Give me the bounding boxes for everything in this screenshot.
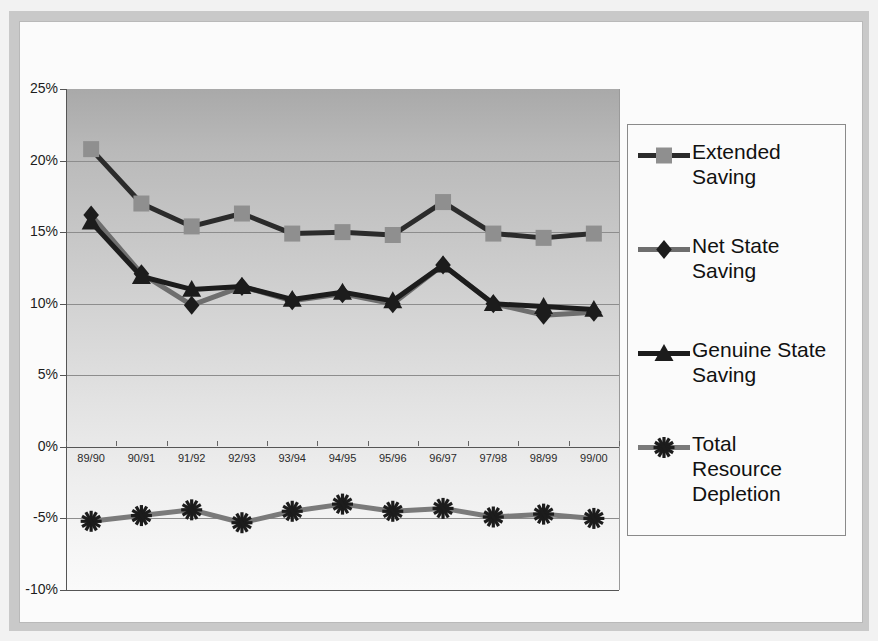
x-axis-tick (267, 441, 268, 446)
data-point (485, 226, 501, 242)
data-point (332, 494, 353, 515)
x-axis-tick (518, 441, 519, 446)
data-point (133, 196, 149, 212)
legend-label-line: Resource (692, 456, 782, 481)
x-axis-tick (619, 441, 620, 446)
legend-entry-extended-saving[interactable]: ExtendedSaving (636, 139, 781, 189)
legend-label: TotalResourceDepletion (692, 431, 782, 506)
y-axis-label-20: 20% (8, 154, 58, 166)
legend-label-line: Genuine State (692, 337, 826, 362)
y-axis-label-0: 0% (8, 440, 58, 452)
legend-label-line: Net State (692, 233, 780, 258)
legend-label-line: Depletion (692, 481, 782, 506)
legend-label: ExtendedSaving (692, 139, 781, 189)
legend-marker-diamond-icon (636, 235, 692, 261)
data-point (231, 512, 252, 533)
data-point (131, 505, 152, 526)
y-axis-label-15: 15% (8, 225, 58, 237)
data-point (483, 506, 504, 527)
y-axis-tick (60, 232, 66, 233)
y-axis-label-neg5: -5% (8, 511, 58, 523)
x-axis-tick (468, 441, 469, 446)
y-axis-tick (60, 375, 66, 376)
data-point (282, 501, 303, 522)
data-point (335, 224, 351, 240)
x-axis-tick (167, 441, 168, 446)
screenshot-frame: 25%20%15%10%5%0%-5%-10%89/9090/9191/9292… (0, 0, 878, 641)
data-point (184, 218, 200, 234)
data-point (81, 511, 102, 532)
legend-entry-total-resource-depletion[interactable]: TotalResourceDepletion (636, 431, 782, 506)
legend-entry-genuine-state-saving[interactable]: Genuine StateSaving (636, 337, 826, 387)
legend-label: Genuine StateSaving (692, 337, 826, 387)
data-point (184, 296, 200, 315)
legend-label-line: Extended (692, 139, 781, 164)
data-point (181, 499, 202, 520)
legend-marker-triangle-icon (636, 339, 692, 365)
plot-right-edge (619, 89, 620, 590)
y-axis-tick (60, 89, 66, 90)
data-point (586, 226, 602, 242)
y-axis-tick (60, 161, 66, 162)
data-point (234, 206, 250, 222)
y-axis-label-10: 10% (8, 297, 58, 309)
x-axis-tick (569, 441, 570, 446)
data-point (385, 227, 401, 243)
x-axis-tick (317, 441, 318, 446)
x-axis-tick (66, 441, 67, 446)
x-axis-label-99-00: 99/00 (564, 452, 624, 464)
y-axis-label-25: 25% (8, 82, 58, 94)
data-point (433, 498, 454, 519)
legend-label: Net StateSaving (692, 233, 780, 283)
y-axis-tick (60, 518, 66, 519)
legend-entry-net-state-saving[interactable]: Net StateSaving (636, 233, 780, 283)
data-point (83, 141, 99, 157)
series-markers-extended-saving (83, 141, 602, 246)
data-point (583, 508, 604, 529)
y-axis-label-neg10: -10% (8, 583, 58, 595)
y-axis-tick (60, 304, 66, 305)
data-point (536, 230, 552, 246)
data-point (284, 226, 300, 242)
chart-legend: ExtendedSavingNet StateSavingGenuine Sta… (627, 124, 846, 536)
legend-label-line: Saving (692, 362, 826, 387)
data-point (435, 194, 451, 210)
data-point (533, 504, 554, 525)
legend-label-line: Total (692, 431, 782, 456)
x-axis-tick (418, 441, 419, 446)
plot-bottom-edge (66, 590, 619, 591)
legend-marker-asterisk-icon (636, 433, 692, 459)
x-axis-tick (217, 441, 218, 446)
data-point (382, 501, 403, 522)
x-axis (66, 447, 619, 448)
series-layer (66, 89, 619, 590)
legend-marker-square-icon (636, 141, 692, 167)
legend-label-line: Saving (692, 164, 781, 189)
x-axis-tick (368, 441, 369, 446)
x-axis-tick (116, 441, 117, 446)
legend-label-line: Saving (692, 258, 780, 283)
y-axis-label-5: 5% (8, 368, 58, 380)
